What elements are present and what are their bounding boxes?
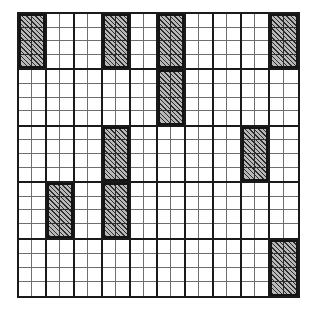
sub-cell xyxy=(227,254,240,268)
sub-grid xyxy=(131,127,157,181)
grid-cell xyxy=(186,183,214,239)
sub-cell xyxy=(158,224,171,238)
sub-cell xyxy=(103,282,116,296)
grid-cell xyxy=(19,240,47,296)
sub-cell xyxy=(131,55,144,69)
sub-cell xyxy=(116,197,129,211)
sub-cell xyxy=(214,268,227,282)
sub-cell xyxy=(199,84,212,98)
sub-cell xyxy=(214,240,227,254)
sub-cell xyxy=(255,55,268,69)
sub-cell xyxy=(88,210,101,224)
sub-cell xyxy=(227,197,240,211)
sub-cell xyxy=(171,140,184,154)
sub-cell xyxy=(60,98,73,112)
sub-cell xyxy=(255,140,268,154)
sub-cell xyxy=(103,55,116,69)
sub-cell xyxy=(270,210,284,224)
sub-cell xyxy=(171,224,184,238)
sub-cell xyxy=(214,254,227,268)
sub-cell xyxy=(47,55,60,69)
shaded-grid-cell xyxy=(158,14,186,70)
sub-cell xyxy=(227,224,240,238)
sub-cell xyxy=(131,183,144,197)
sub-cell xyxy=(186,254,199,268)
sub-cell xyxy=(75,111,88,125)
sub-cell xyxy=(171,98,184,112)
sub-cell xyxy=(32,197,45,211)
grid-cell xyxy=(75,240,103,296)
sub-grid xyxy=(270,183,298,237)
sub-cell xyxy=(75,154,88,168)
sub-cell xyxy=(144,84,157,98)
sub-cell xyxy=(242,14,255,28)
sub-cell xyxy=(214,70,227,84)
sub-cell xyxy=(186,127,199,141)
sub-cell xyxy=(284,168,298,182)
sub-grid xyxy=(186,127,212,181)
sub-cell xyxy=(255,127,268,141)
sub-cell xyxy=(171,41,184,55)
sub-cell xyxy=(32,268,45,282)
sub-cell xyxy=(186,84,199,98)
sub-cell xyxy=(199,14,212,28)
sub-cell xyxy=(19,240,32,254)
sub-cell xyxy=(144,154,157,168)
grid-cell xyxy=(214,183,242,239)
sub-cell xyxy=(116,224,129,238)
sub-cell xyxy=(270,282,284,296)
sub-cell xyxy=(158,14,171,28)
sub-cell xyxy=(75,210,88,224)
sub-cell xyxy=(103,111,116,125)
sub-grid xyxy=(242,127,268,181)
sub-cell xyxy=(116,127,129,141)
sub-cell xyxy=(88,240,101,254)
sub-cell xyxy=(144,183,157,197)
grid-cell xyxy=(19,183,47,239)
sub-cell xyxy=(32,70,45,84)
sub-cell xyxy=(214,168,227,182)
sub-cell xyxy=(171,210,184,224)
sub-cell xyxy=(75,127,88,141)
sub-cell xyxy=(144,282,157,296)
sub-cell xyxy=(227,14,240,28)
shaded-grid-cell xyxy=(242,127,270,183)
sub-cell xyxy=(144,240,157,254)
sub-grid xyxy=(103,240,129,296)
grid-cell xyxy=(270,127,298,183)
sub-cell xyxy=(131,197,144,211)
sub-cell xyxy=(75,168,88,182)
sub-cell xyxy=(88,268,101,282)
sub-cell xyxy=(171,70,184,84)
sub-cell xyxy=(131,168,144,182)
sub-cell xyxy=(131,84,144,98)
sub-grid xyxy=(103,127,129,181)
sub-cell xyxy=(227,268,240,282)
sub-cell xyxy=(19,224,32,238)
sub-grid xyxy=(214,70,240,124)
sub-cell xyxy=(199,140,212,154)
sub-cell xyxy=(242,98,255,112)
sub-grid xyxy=(47,70,73,124)
sub-cell xyxy=(32,224,45,238)
sub-cell xyxy=(75,197,88,211)
sub-cell xyxy=(19,210,32,224)
sub-cell xyxy=(144,140,157,154)
sub-cell xyxy=(144,70,157,84)
grid-cell xyxy=(131,14,159,70)
sub-cell xyxy=(270,140,284,154)
sub-cell xyxy=(116,140,129,154)
sub-cell xyxy=(32,28,45,42)
sub-cell xyxy=(242,127,255,141)
sub-cell xyxy=(131,140,144,154)
sub-cell xyxy=(88,154,101,168)
sub-cell xyxy=(171,14,184,28)
sub-cell xyxy=(60,41,73,55)
sub-cell xyxy=(186,197,199,211)
sub-cell xyxy=(199,41,212,55)
sub-cell xyxy=(284,14,298,28)
sub-cell xyxy=(186,154,199,168)
sub-grid xyxy=(158,240,184,296)
sub-cell xyxy=(116,183,129,197)
sub-cell xyxy=(103,14,116,28)
